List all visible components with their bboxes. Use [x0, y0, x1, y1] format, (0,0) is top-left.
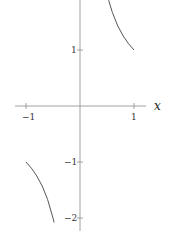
x-tick-label-pos1: 1: [131, 112, 137, 122]
y-tick-label-pos1: 1: [71, 45, 77, 55]
x-axis-label: x: [154, 99, 161, 113]
chart: −1 1 1 −1 −2 x: [0, 0, 170, 231]
x-tick-label-neg1: −1: [22, 112, 35, 122]
curve-positive-branch: [109, 0, 134, 50]
y-tick-label-neg1: −1: [64, 157, 77, 167]
curve-negative-branch: [26, 162, 54, 223]
y-tick-label-neg2: −2: [64, 213, 77, 223]
